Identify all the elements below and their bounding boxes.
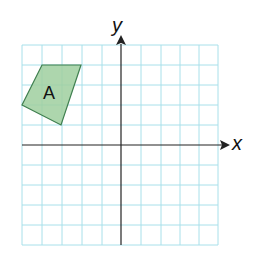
shape-label: A xyxy=(43,83,55,104)
x-axis-label: x xyxy=(232,132,242,155)
y-axis-label: y xyxy=(112,14,122,37)
coordinate-plane xyxy=(0,0,258,257)
